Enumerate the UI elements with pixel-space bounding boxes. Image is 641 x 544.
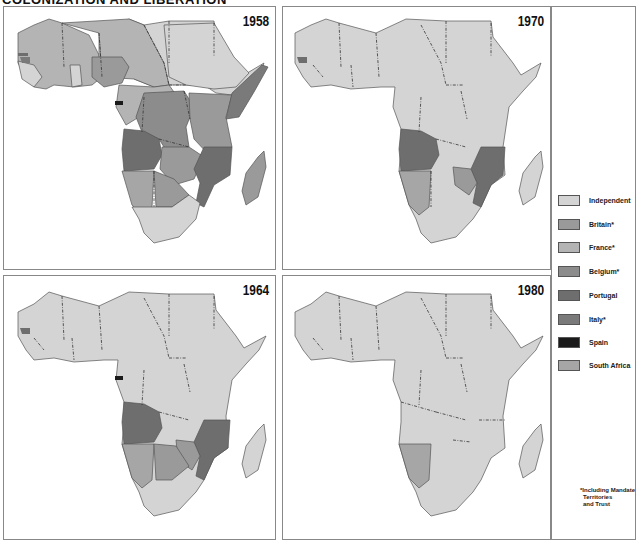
map-panel-1964: 1964 — [3, 275, 276, 540]
africa-map-1970 — [283, 7, 551, 270]
legend-swatch — [558, 314, 580, 325]
africa-map-1958 — [4, 7, 276, 270]
legend-swatch — [558, 242, 580, 253]
legend-swatch — [558, 195, 580, 206]
legend-item-belgium: Belgium* — [558, 265, 619, 277]
legend-item-south-africa: South Africa — [558, 359, 630, 371]
legend-item-independent: Independent — [558, 194, 631, 206]
legend-swatch — [558, 290, 580, 301]
legend-panel: Independent Britain* France* Belgium* Po… — [551, 6, 636, 540]
legend-item-france: France* — [558, 241, 615, 253]
legend-swatch — [558, 360, 580, 371]
map-panel-1970: 1970 — [282, 6, 551, 270]
legend-item-spain: Spain — [558, 336, 608, 348]
map-panel-1980: 1980 — [282, 275, 551, 540]
legend-item-italy: Italy* — [558, 313, 606, 325]
legend-swatch — [558, 219, 580, 230]
legend-item-britain: Britain* — [558, 218, 614, 230]
africa-map-1980 — [283, 276, 551, 540]
legend-item-portugal: Portugal — [558, 289, 617, 301]
africa-map-1964 — [4, 276, 276, 540]
map-panel-1958: 1958 — [3, 6, 276, 270]
legend-swatch — [558, 337, 580, 348]
legend-swatch — [558, 266, 580, 277]
legend-footnote: *Including Mandate Territories and Trust — [580, 487, 635, 508]
